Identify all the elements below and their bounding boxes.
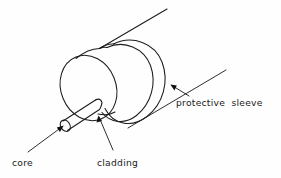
protective-sleeve-inner-wall bbox=[102, 44, 153, 121]
fiber-diagram-figure: core cladding protective sleeve bbox=[0, 0, 281, 178]
fiber-diagram-canvas: core cladding protective sleeve bbox=[0, 0, 281, 178]
core-leader bbox=[28, 126, 64, 152]
core-rod bbox=[58, 99, 102, 133]
cladding-leader bbox=[97, 115, 114, 150]
label-cladding: cladding bbox=[97, 157, 138, 168]
label-core: core bbox=[12, 157, 33, 168]
label-protective-sleeve: protective sleeve bbox=[176, 97, 263, 108]
protective-sleeve-outer-body bbox=[100, 9, 168, 123]
